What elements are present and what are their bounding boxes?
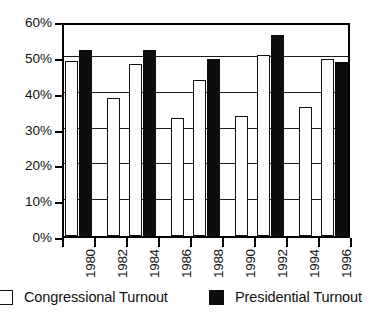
y-tick-label-60%: 60% — [0, 16, 52, 30]
x-tick-label-1986: 1986 — [180, 249, 194, 278]
bar-congressional-1984 — [129, 64, 142, 236]
bar-congressional-1990 — [235, 116, 248, 236]
legend-label-presidential: Presidential Turnout — [235, 289, 362, 305]
y-tick-label-20%: 20% — [0, 159, 52, 173]
bar-presidential-1992 — [271, 35, 284, 236]
legend-item-congressional[interactable]: Congressional Turnout — [0, 286, 168, 308]
bar-presidential-1988 — [207, 59, 220, 236]
y-tick-label-40%: 40% — [0, 88, 52, 102]
bar-congressional-1996 — [321, 59, 334, 236]
bar-presidential-1996 — [335, 62, 348, 236]
y-tick-label-30%: 30% — [0, 124, 52, 138]
plot-area — [62, 23, 350, 238]
x-tick-label-1994: 1994 — [308, 249, 322, 278]
bar-congressional-1982 — [107, 98, 120, 236]
x-tick-label-1992: 1992 — [276, 249, 290, 278]
y-tick-label-10%: 10% — [0, 195, 52, 209]
legend-swatch-presidential-icon — [209, 290, 224, 305]
y-tick-label-50%: 50% — [0, 52, 52, 66]
legend-swatch-congressional-icon — [0, 290, 13, 305]
legend-label-congressional: Congressional Turnout — [24, 289, 168, 305]
x-axis-labels: 198019821984198619881990199219941996 — [0, 238, 380, 280]
x-tick-label-1990: 1990 — [244, 249, 258, 278]
x-tick-label-1980: 1980 — [84, 249, 98, 278]
bar-congressional-1994 — [299, 107, 312, 236]
x-tick-label-1988: 1988 — [212, 249, 226, 278]
plot-wrapper: 0%10%20%30%40%50%60% 1980198219841986198… — [0, 0, 380, 275]
gridline-40% — [64, 92, 348, 93]
bar-congressional-1986 — [171, 118, 184, 236]
bar-presidential-1980 — [79, 50, 92, 236]
bar-congressional-1988 — [193, 80, 206, 236]
x-tick-label-1982: 1982 — [116, 249, 130, 278]
gridline-50% — [64, 56, 348, 57]
x-tick-label-1984: 1984 — [148, 249, 162, 278]
bar-congressional-1992 — [257, 55, 270, 236]
legend-item-presidential[interactable]: Presidential Turnout — [209, 286, 362, 308]
bar-congressional-1980 — [65, 61, 78, 236]
x-tick-label-1996: 1996 — [340, 249, 354, 278]
chart-legend: Congressional Turnout Presidential Turno… — [0, 286, 380, 312]
bar-presidential-1984 — [143, 50, 156, 236]
voter-turnout-bar-chart: 0%10%20%30%40%50%60% 1980198219841986198… — [0, 0, 380, 321]
